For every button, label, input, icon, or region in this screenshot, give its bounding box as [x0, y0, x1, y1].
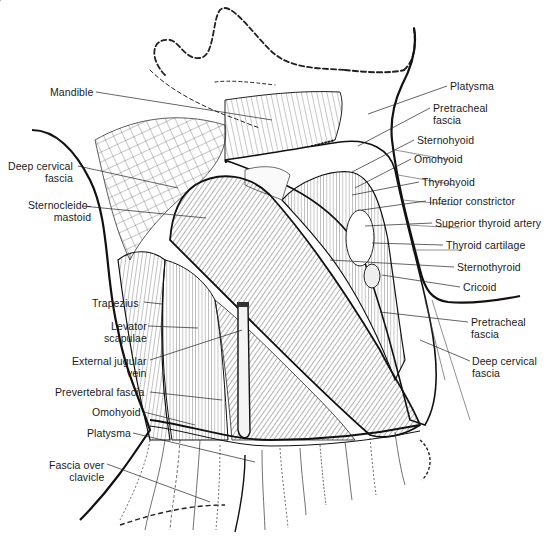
- clavicle-dashed: [120, 505, 225, 525]
- label-prevertebral-fascia: Prevertebral fascia: [55, 386, 144, 398]
- label-omohyoid-right: Omohyoid: [414, 153, 463, 165]
- label-pretracheal-fascia-bottom: Pretrachealfascia: [471, 316, 526, 340]
- label-platysma-right: Platysma: [450, 80, 494, 92]
- external-jugular-vein-shape: [237, 302, 250, 438]
- label-external-jugular-vein: External jugularvein: [72, 355, 147, 379]
- label-deep-cervical-fascia-right: Deep cervicalfascia: [472, 355, 537, 379]
- label-mandible: Mandible: [50, 86, 93, 98]
- label-platysma-left: Platysma: [87, 427, 131, 439]
- label-pretracheal-fascia-top: Pretrachealfascia: [433, 102, 488, 126]
- label-sternothyroid: Sternothyroid: [457, 261, 521, 273]
- face-outline-dashed: [0, 0, 415, 128]
- label-cricoid: Cricoid: [463, 281, 496, 293]
- thyroid-cartilage-shape: [346, 210, 374, 266]
- label-sternocleidomastoid: Sternocleido-mastoid: [28, 199, 91, 223]
- anatomy-figure: Mandible Deep cervicalfascia Sternocleid…: [0, 0, 551, 536]
- label-thyrohyoid: Thyrohyoid: [422, 176, 475, 188]
- label-sternohyoid: Sternohyoid: [417, 134, 474, 146]
- label-fascia-over-clavicle: Fascia overclavicle: [49, 459, 104, 483]
- cricoid-shape: [364, 264, 380, 288]
- label-omohyoid-left: Omohyoid: [92, 406, 141, 418]
- label-levator-scapulae: Levatorscapulae: [104, 320, 147, 344]
- lower-platysma-fibers: [120, 432, 405, 530]
- label-inferior-constrictor: Inferior constrictor: [429, 195, 515, 207]
- sternal-notch-dashed: [420, 440, 430, 480]
- label-thyroid-cartilage: Thyroid cartilage: [446, 239, 525, 251]
- label-deep-cervical-fascia-left: Deep cervicalfascia: [8, 160, 73, 184]
- label-superior-thyroid-artery: Superior thyroid artery: [435, 217, 541, 229]
- label-trapezius: Trapezius: [92, 297, 139, 309]
